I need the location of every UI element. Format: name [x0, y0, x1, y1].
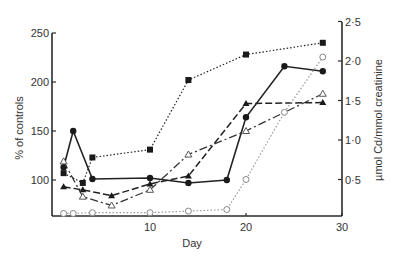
data-point-marker: [147, 175, 153, 181]
data-point-marker: [320, 40, 326, 46]
data-point-marker: [60, 183, 67, 189]
y-tick-label: 150: [31, 125, 49, 137]
series-filled-circle: [60, 63, 326, 186]
data-point-marker: [224, 207, 230, 213]
y-axis-title: % of controls: [13, 96, 25, 160]
data-point-marker: [281, 63, 287, 69]
y-tick-label: 200: [31, 76, 49, 88]
chart: 1001502002500·51·01·52·02·5102030 Day % …: [0, 0, 395, 261]
series-group: [60, 40, 326, 217]
series-open-circle: [61, 54, 326, 216]
x-tick-label: 30: [336, 221, 348, 233]
data-point-marker: [89, 210, 95, 216]
data-point-marker: [185, 77, 191, 83]
y2-tick-label: 2·0: [345, 55, 361, 67]
data-point-marker: [185, 180, 191, 186]
series-line: [64, 66, 323, 183]
data-point-marker: [79, 193, 86, 199]
y2-tick-label: 1·5: [345, 95, 361, 107]
data-point-marker: [243, 114, 249, 120]
data-point-marker: [320, 68, 326, 74]
y2-tick-label: 2·5: [345, 16, 361, 28]
data-point-marker: [147, 210, 153, 216]
data-point-marker: [61, 210, 67, 216]
data-point-marker: [80, 180, 86, 186]
data-point-marker: [61, 170, 67, 176]
data-point-marker: [243, 52, 249, 58]
x-tick-label: 10: [144, 221, 156, 233]
data-point-marker: [89, 154, 95, 160]
data-point-marker: [243, 177, 249, 183]
y-tick-label: 100: [31, 174, 49, 186]
data-point-marker: [319, 90, 326, 96]
data-point-marker: [89, 176, 95, 182]
data-point-marker: [185, 208, 191, 214]
y2-axis-title: µmol Cd/mmol creatinine: [372, 59, 384, 181]
data-point-marker: [70, 210, 76, 216]
y2-tick-label: 0·5: [345, 174, 361, 186]
x-axis-title: Day: [182, 237, 202, 249]
y2-tick-label: 1·0: [345, 134, 361, 146]
x-tick-label: 20: [240, 221, 252, 233]
data-point-marker: [320, 54, 326, 60]
series-open-triangle: [60, 90, 326, 208]
series-line: [64, 57, 323, 213]
axes: 1001502002500·51·01·52·02·5102030: [31, 16, 361, 234]
data-point-marker: [281, 109, 287, 115]
data-point-marker: [147, 147, 153, 153]
series-line: [64, 103, 323, 196]
data-point-marker: [224, 177, 230, 183]
data-point-marker: [70, 128, 76, 134]
y-tick-label: 250: [31, 27, 49, 39]
